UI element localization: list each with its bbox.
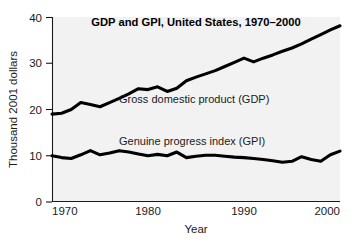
x-tick-label-1990: 1990 [231,205,257,217]
x-tick-label-2000: 2000 [314,205,340,217]
y-tick-label-40: 40 [29,12,42,24]
y-tick-label-20: 20 [29,104,42,116]
y-axis-title: Thousand 2001 dollars [7,51,19,168]
x-axis-title: Year [184,223,207,235]
y-tick-label-30: 30 [29,57,42,69]
gdp-gpi-line-chart: 0 10 20 30 40 Thousand 2001 dollars 1970… [0,0,355,248]
chart-figure: 0 10 20 30 40 Thousand 2001 dollars 1970… [0,0,355,248]
gpi-series-label: Genuine progress index (GPI) [119,135,265,147]
y-tick-label-10: 10 [29,150,42,162]
x-tick-label-1970: 1970 [52,205,78,217]
x-tick-label-1980: 1980 [135,205,161,217]
chart-title: GDP and GPI, United States, 1970–2000 [91,16,300,28]
y-tick-label-0: 0 [36,196,42,208]
gdp-series-label: Gross domestic product (GDP) [119,93,269,105]
